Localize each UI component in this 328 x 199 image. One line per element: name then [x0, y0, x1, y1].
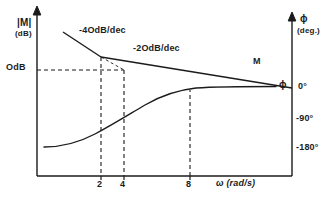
segment-minus-40-db-dec	[63, 32, 101, 57]
y-tick-0deg: 0°	[298, 82, 307, 91]
magnitude-axis-arrow	[33, 6, 41, 27]
magnitude-axis-unit: (dB)	[15, 30, 32, 38]
phase-axis-arrow	[288, 12, 296, 27]
phase-axis-unit: (deg.)	[297, 27, 320, 35]
phase-axis-label: ϕ	[300, 14, 308, 25]
segment-minus-20-db-dec	[101, 57, 292, 88]
x-tick-label-8: 8	[186, 180, 191, 189]
x-tick-label-2: 2	[97, 180, 102, 189]
magnitude-curve-label: M	[253, 57, 261, 66]
plot-canvas	[0, 0, 328, 199]
slope-label-minus-40: -4OdB/dec	[79, 26, 126, 35]
x-tick-label-4: 4	[120, 180, 125, 189]
bode-plot-figure: |M| (dB) OdB ϕ (deg.) 0° -90° -180° 2 4 …	[0, 0, 328, 199]
breakpoint-guides	[101, 57, 190, 176]
y-tick-minus-90deg: -90°	[296, 114, 313, 123]
y-tick-minus-180deg: -180°	[296, 143, 319, 152]
x-axis-label: ω (rad/s)	[216, 179, 255, 188]
phase-curve-label: ϕ	[279, 80, 287, 91]
y-tick-0db: OdB	[6, 63, 26, 72]
magnitude-axis-label: |M|	[17, 18, 32, 29]
phase-curve	[44, 87, 276, 148]
slope-label-minus-20: -2OdB/dec	[133, 44, 180, 53]
